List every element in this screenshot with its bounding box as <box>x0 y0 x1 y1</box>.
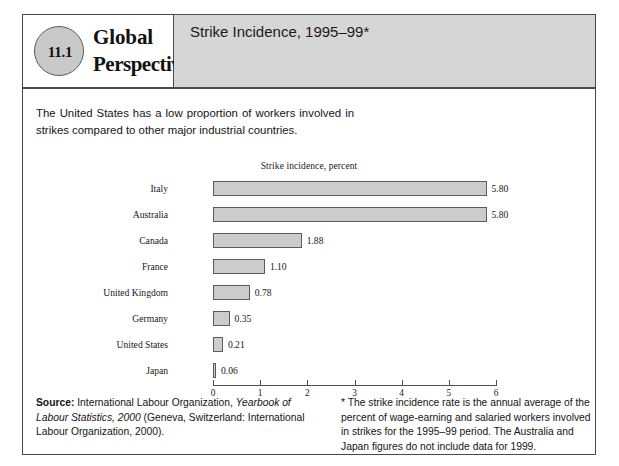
chart-bar <box>213 207 487 222</box>
chart-bar <box>213 259 265 274</box>
chart-plot-area: Italy5.80Australia5.80Canada1.88France1.… <box>23 180 595 386</box>
chart-bar <box>213 337 223 352</box>
bar-value-label: 1.10 <box>270 258 287 275</box>
footnote-note: * The strike incidence rate is the annua… <box>341 396 591 454</box>
bar-value-label: 0.06 <box>221 362 238 379</box>
page-title: Strike Incidence, 1995–99* <box>190 23 369 40</box>
source-label: Source: <box>36 397 74 408</box>
bar-category-label: Australia <box>23 206 168 223</box>
figure-number-text: 11.1 <box>35 27 85 77</box>
bar-category-label: United States <box>23 336 168 353</box>
bar-category-label: Germany <box>23 310 168 327</box>
axis-tick <box>260 380 261 386</box>
figure-notes: Source: International Labour Organizatio… <box>23 396 595 454</box>
figure-number-badge: 11.1 <box>34 26 84 76</box>
chart-bar-row: France1.10 <box>23 258 595 275</box>
chart-bar-row: Italy5.80 <box>23 180 595 197</box>
chart-bar-row: Germany0.35 <box>23 310 595 327</box>
chart-bar <box>213 311 230 326</box>
bar-value-label: 5.80 <box>492 180 509 197</box>
chart-bar <box>213 181 487 196</box>
chart-bar-row: Japan0.06 <box>23 362 595 379</box>
bar-category-label: France <box>23 258 168 275</box>
bar-chart: Strike incidence, percent Italy5.80Austr… <box>23 161 595 386</box>
source-note: Source: International Labour Organizatio… <box>36 396 316 440</box>
source-text-1: International Labour Organization, <box>74 397 235 408</box>
axis-tick <box>402 380 403 386</box>
global-perspective-figure: 11.1 Global Perspective Strike Incidence… <box>22 14 596 455</box>
chart-bar <box>213 233 302 248</box>
chart-bar-row: United States0.21 <box>23 336 595 353</box>
bar-category-label: Japan <box>23 362 168 379</box>
axis-tick <box>449 380 450 386</box>
figure-body: The United States has a low proportion o… <box>22 88 596 455</box>
title-panel: Strike Incidence, 1995–99* <box>174 14 596 88</box>
intro-paragraph: The United States has a low proportion o… <box>36 105 354 138</box>
bar-value-label: 1.88 <box>307 232 324 249</box>
axis-tick <box>496 380 497 386</box>
bar-category-label: Italy <box>23 180 168 197</box>
logo-panel: 11.1 Global Perspective <box>22 14 174 88</box>
axis-tick <box>213 380 214 386</box>
chart-title: Strike incidence, percent <box>23 161 595 171</box>
chart-bar-row: Canada1.88 <box>23 232 595 249</box>
figure-header: 11.1 Global Perspective Strike Incidence… <box>22 14 596 88</box>
bar-category-label: United Kingdom <box>23 284 168 301</box>
bar-value-label: 0.78 <box>255 284 272 301</box>
axis-tick <box>355 380 356 386</box>
bar-category-label: Canada <box>23 232 168 249</box>
chart-bar-row: Australia5.80 <box>23 206 595 223</box>
chart-bar <box>213 285 250 300</box>
bar-value-label: 0.35 <box>235 310 252 327</box>
axis-tick <box>307 380 308 386</box>
chart-bar <box>213 363 216 378</box>
bar-value-label: 0.21 <box>228 336 245 353</box>
bar-value-label: 5.80 <box>492 206 509 223</box>
chart-bar-row: United Kingdom0.78 <box>23 284 595 301</box>
